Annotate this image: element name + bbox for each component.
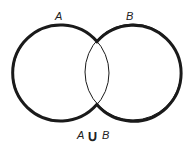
set-a-label: A (54, 10, 62, 22)
venn-svg: A B A ∪ B (0, 0, 188, 146)
union-outline (13, 25, 181, 121)
venn-diagram: A B A ∪ B (0, 0, 188, 146)
caption-right: B (102, 129, 109, 141)
set-b-label: B (126, 10, 133, 22)
caption-left: A (76, 129, 84, 141)
union-symbol: ∪ (87, 127, 98, 144)
